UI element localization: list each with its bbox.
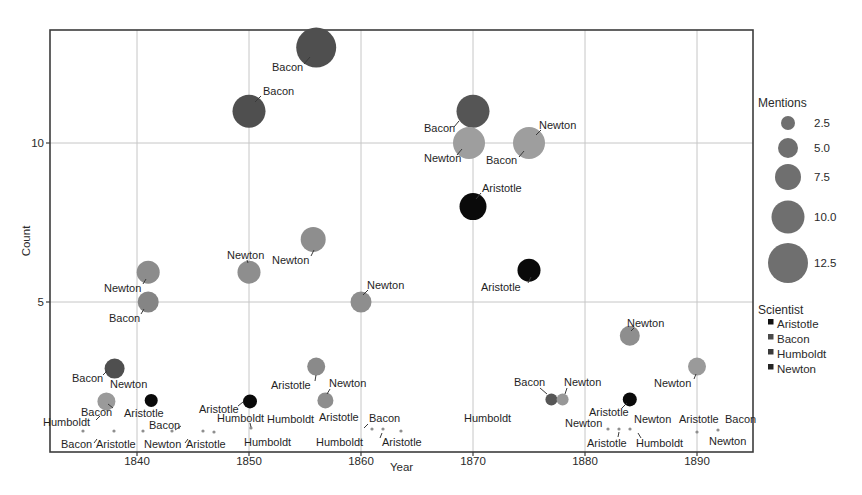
point-label: Aristotle: [319, 411, 359, 423]
legend-mentions: Mentions2.55.07.510.012.5: [758, 96, 836, 283]
legend-color-label: Bacon: [777, 333, 810, 345]
point-label: Newton: [227, 249, 264, 261]
point-bubble-newton-1878: [557, 393, 569, 405]
y-tick-label: 5: [38, 296, 44, 308]
point-bubble-newton-1856: [301, 227, 326, 252]
point-label: Newton: [565, 417, 602, 429]
x-tick-label: 1850: [236, 455, 262, 467]
point-label: Bacon: [486, 154, 517, 166]
point-label: Bacon: [263, 85, 294, 97]
legend-color-label: Humboldt: [777, 348, 827, 360]
point-bubble-aristotle-1850: [243, 394, 257, 408]
legend-size-bubble: [778, 138, 798, 158]
point-bubble-aristotle-1856: [307, 358, 325, 376]
point-bubble-aristotle-1875: [518, 259, 541, 282]
legend-color-swatch: [768, 334, 774, 340]
point-label: Aristotle: [587, 437, 627, 449]
legend-color-swatch: [768, 349, 774, 355]
point-speck: [716, 428, 719, 431]
point-label: Bacon: [61, 438, 92, 450]
point-label: Humboldt: [217, 412, 264, 424]
point-label: Humboldt: [316, 436, 363, 448]
point-label: Bacon: [424, 122, 455, 134]
point-bubble-bacon-1877: [545, 393, 557, 405]
point-bubble-bacon-1870: [457, 95, 490, 128]
point-label: Aristotle: [271, 379, 311, 391]
point-label: Newton: [104, 282, 141, 294]
point-speck: [112, 429, 115, 432]
legend-size-label: 7.5: [814, 171, 830, 183]
point-label: Bacon: [514, 376, 545, 388]
point-label: Bacon: [149, 419, 180, 431]
legend-size-bubble: [781, 116, 795, 130]
point-label: Aristotle: [679, 413, 719, 425]
point-bubble-bacon-1850: [233, 95, 266, 128]
point-label: Aristotle: [186, 438, 226, 450]
legend-size-label: 10.0: [814, 211, 836, 223]
point-label: Humboldt: [244, 436, 291, 448]
legend-color-label: Newton: [777, 363, 816, 375]
point-label: Aristotle: [482, 182, 522, 194]
x-tick-label: 1870: [460, 455, 486, 467]
point-label: Humboldt: [464, 412, 511, 424]
legend-color-label: Aristotle: [777, 318, 819, 330]
point-label: Newton: [367, 279, 404, 291]
x-tick-label: 1840: [124, 455, 150, 467]
point-label: Newton: [144, 438, 181, 450]
panel-background: [50, 30, 753, 452]
point-speck: [381, 427, 384, 430]
point-label: Newton: [329, 377, 366, 389]
legend-size-label: 12.5: [814, 257, 836, 269]
point-bubble-newton-1850: [238, 261, 261, 284]
point-speck: [695, 430, 698, 433]
point-label: Bacon: [725, 413, 756, 425]
point-speck: [628, 427, 631, 430]
point-bubble-newton-1841: [137, 261, 160, 284]
point-bubble-bacon-1841: [138, 292, 159, 313]
bubble-chart-figure: 184018501860187018801890510YearCountBaco…: [0, 0, 862, 495]
point-bubble-aristotle-1870: [460, 193, 487, 220]
legend-size-label: 5.0: [814, 142, 830, 154]
point-speck: [399, 429, 402, 432]
legend-size-bubble: [775, 164, 801, 190]
legend-size-bubble: [768, 243, 808, 283]
point-label: Aristotle: [382, 436, 422, 448]
point-label: Newton: [634, 413, 671, 425]
point-bubble-newton-1860: [351, 292, 372, 313]
point-speck: [201, 429, 204, 432]
y-tick-label: 10: [31, 137, 44, 149]
point-speck: [606, 427, 609, 430]
point-bubble-aristotle-1841: [145, 394, 158, 407]
point-label: Newton: [564, 376, 601, 388]
point-label: Newton: [654, 377, 691, 389]
point-speck: [212, 430, 215, 433]
x-tick-label: 1860: [348, 455, 374, 467]
legend-size-label: 2.5: [814, 117, 830, 129]
x-tick-label: 1880: [572, 455, 598, 467]
legend-scientist-title: Scientist: [758, 303, 804, 317]
legend-color-swatch: [768, 319, 774, 325]
point-label: Bacon: [369, 412, 400, 424]
point-label: Bacon: [109, 312, 140, 324]
x-tick-label: 1890: [684, 455, 710, 467]
point-speck: [81, 429, 84, 432]
point-label: Newton: [272, 254, 309, 266]
point-bubble-newton-1857: [317, 392, 333, 408]
point-bubble-bacon-1875: [513, 127, 545, 159]
legend-color-swatch: [768, 364, 774, 370]
point-label: Newton: [709, 435, 746, 447]
point-speck: [370, 427, 373, 430]
point-label: Humboldt: [43, 416, 90, 428]
point-label: Newton: [539, 119, 576, 131]
point-bubble-aristotle-1884: [623, 392, 637, 406]
y-axis-title: Count: [20, 225, 32, 256]
legend-mentions-title: Mentions: [758, 96, 807, 110]
point-label: Aristotle: [124, 407, 164, 419]
legend-size-bubble: [772, 201, 805, 234]
point-speck: [141, 429, 144, 432]
point-label: Humboldt: [267, 413, 314, 425]
point-bubble-newton-1890: [688, 358, 706, 376]
point-label: Aristotle: [96, 438, 136, 450]
legend-scientist: ScientistAristotleBaconHumboldtNewton: [758, 303, 827, 375]
point-bubble-bacon-1838: [105, 359, 125, 379]
